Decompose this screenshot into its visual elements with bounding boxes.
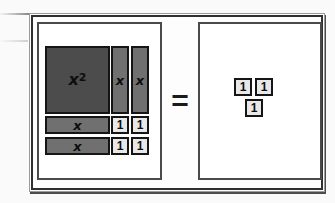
unit-tile-label: 1 (117, 140, 124, 152)
x-tile-horizontal: x (45, 137, 110, 155)
unit-tile: 1 (111, 116, 129, 134)
inner-frame: x2 x x x x 1 1 (31, 15, 323, 190)
algebra-tiles-figure: x2 x x x x 1 1 (0, 0, 335, 203)
x-tile-label: x (116, 74, 124, 87)
unit-tile: 1 (111, 137, 129, 155)
unit-tile-label: 1 (240, 81, 247, 93)
unit-tile-label: 1 (251, 102, 258, 114)
left-panel: x2 x x x x 1 1 (37, 22, 162, 180)
unit-tile-label: 1 (137, 140, 144, 152)
unit-tile-label: 1 (261, 81, 268, 93)
unit-tile-label: 1 (137, 119, 144, 131)
unit-tile: 1 (131, 137, 149, 155)
scan-artifact-line (0, 40, 28, 42)
unit-tile: 1 (131, 116, 149, 134)
unit-tile: 1 (255, 78, 273, 96)
x-tile-label: x (73, 140, 81, 153)
x-squared-tile: x2 (45, 46, 110, 114)
x-squared-label: x2 (69, 72, 87, 88)
x-tile-horizontal: x (45, 116, 110, 134)
unit-tile: 1 (234, 78, 252, 96)
scan-artifact-line (0, 13, 30, 15)
x-tile-vertical: x (131, 46, 149, 114)
x-tile-label: x (73, 119, 81, 132)
equals-sign: = (162, 88, 198, 115)
unit-tile: 1 (245, 99, 263, 117)
x-tile-vertical: x (111, 46, 129, 114)
right-panel: 1 1 1 (198, 22, 322, 180)
x-tile-label: x (136, 74, 144, 87)
outer-frame: x2 x x x x 1 1 (29, 13, 325, 192)
unit-tile-label: 1 (117, 119, 124, 131)
